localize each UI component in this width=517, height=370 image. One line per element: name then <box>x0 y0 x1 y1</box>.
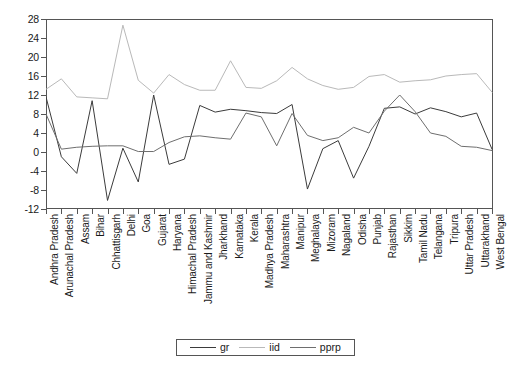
x-axis-category-label: Jammu and Kashmir <box>204 214 214 304</box>
x-axis-labels: Andhra PradeshArunachal PradeshAssamBiha… <box>46 214 493 324</box>
series-line-iid <box>46 25 492 99</box>
legend-entry-pprp: pprp <box>285 342 346 353</box>
x-axis-category-label: Rajasthan <box>388 214 398 258</box>
x-axis-category-label: Sikkim <box>404 214 414 243</box>
line-chart-figure: 2824201612840-4-8-12 Andhra PradeshAruna… <box>0 0 517 370</box>
y-axis-tick-label: -8 <box>30 184 39 196</box>
x-axis-category-label: Tamil Nadu <box>419 214 429 263</box>
legend-entry-gr: gr <box>185 342 234 353</box>
x-axis-category-label: Haryana <box>173 214 183 251</box>
y-axis-tick-label: 20 <box>28 51 39 63</box>
y-axis-tick-label: 24 <box>28 32 39 44</box>
x-axis-category-label: Nagaland <box>342 214 352 256</box>
x-axis-category-label: Arunachal Pradesh <box>65 214 75 297</box>
legend-swatch-iid <box>239 347 265 348</box>
plot-series-canvas <box>46 19 493 209</box>
y-axis: 2824201612840-4-8-12 <box>0 19 46 209</box>
series-line-pprp <box>46 95 492 152</box>
y-axis-tick-label: -12 <box>24 203 39 215</box>
x-axis-category-label: Madhya Pradesh <box>265 214 275 288</box>
y-axis-tick-label: 12 <box>28 89 39 101</box>
y-axis-tick-label: 28 <box>28 13 39 25</box>
x-axis-category-label: Karnataka <box>235 214 245 259</box>
x-axis-category-label: Uttar Pradesh <box>465 214 475 274</box>
x-axis-category-label: Jharkhand <box>219 214 229 260</box>
legend-label-iid: iid <box>269 342 280 353</box>
x-axis-category-label: Goa <box>142 214 152 233</box>
x-axis-category-label: Tripura <box>450 214 460 245</box>
legend-label-gr: gr <box>220 342 229 353</box>
x-axis-category-label: Gujarat <box>158 214 168 246</box>
y-axis-tick-label: 16 <box>28 70 39 82</box>
x-axis-category-label: Kerala <box>250 214 260 242</box>
x-axis-category-label: Bihar <box>96 214 106 237</box>
legend-swatch-gr <box>190 347 216 348</box>
x-axis-category-label: Meghalaya <box>311 214 321 262</box>
x-axis-category-label: Andhra Pradesh <box>50 214 60 285</box>
x-axis-category-label: Odisha <box>358 214 368 245</box>
x-axis-category-label: Manipur <box>296 214 306 249</box>
chart-legend: griidpprp <box>176 339 355 356</box>
series-line-gr <box>46 95 492 200</box>
x-axis-category-label: Mizoram <box>327 214 337 252</box>
x-axis-category-label: Assam <box>81 214 91 244</box>
legend-swatch-pprp <box>290 347 316 348</box>
x-axis-category-label: Telangana <box>434 214 444 259</box>
x-axis-category-label: Punjab <box>373 214 383 245</box>
y-axis-tick-label: 0 <box>33 146 39 158</box>
x-axis-category-label: Maharashtra <box>281 214 291 269</box>
y-axis-tick-label: 8 <box>33 108 39 120</box>
x-axis-category-label: Himachal Pradesh <box>188 214 198 294</box>
x-axis-category-label: Chhattisgarh <box>112 214 122 270</box>
x-axis-category-label: Uttarakhand <box>481 214 491 267</box>
legend-entry-iid: iid <box>234 342 285 353</box>
x-axis-category-label: Delhi <box>127 214 137 236</box>
y-axis-tick-label: -4 <box>30 165 39 177</box>
x-axis-category-label: West Bengal <box>496 214 506 269</box>
legend-label-pprp: pprp <box>320 342 341 353</box>
y-axis-tick-label: 4 <box>33 127 39 139</box>
